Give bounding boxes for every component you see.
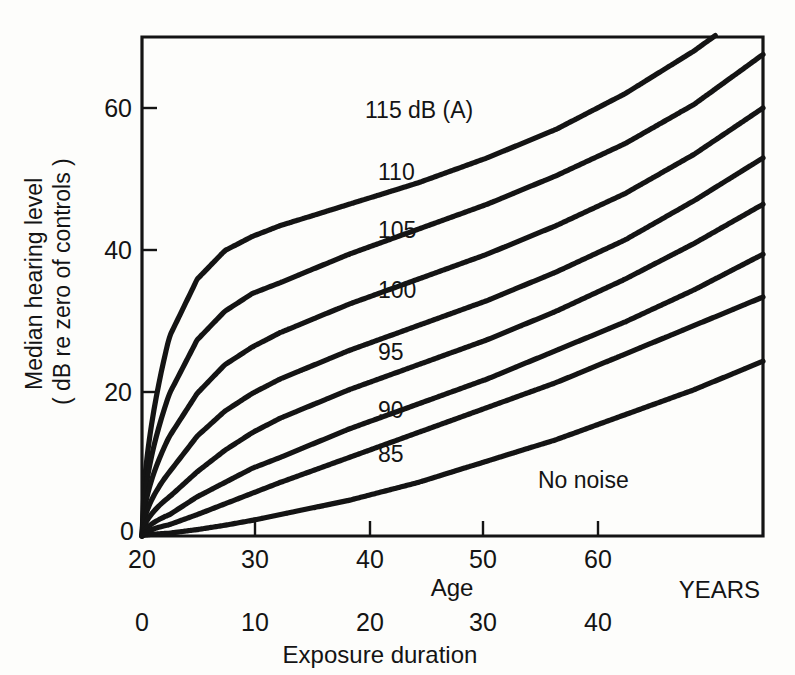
y-axis-title-line2: ( dB re zero of controls ) [49, 158, 75, 405]
y-tick-label-40: 40 [104, 236, 132, 264]
y-axis-ticks [142, 108, 157, 392]
x-secondary-tick-label-30: 30 [469, 608, 497, 636]
y-axis-title-line1: Median hearing level [21, 178, 47, 390]
x-secondary-tick-label-20: 20 [356, 608, 384, 636]
curve-no-noise [142, 361, 763, 536]
chart-svg: 60 40 20 0 Median hearing level ( dB re … [0, 0, 795, 675]
x-secondary-tick-label-10: 10 [241, 608, 269, 636]
curve-label-110: 110 [378, 159, 415, 185]
x-axis-unit-years: YEARS [679, 576, 760, 603]
curve-label-115: 115 dB (A) [365, 97, 473, 123]
x-tick-label-30: 30 [241, 545, 269, 573]
curve-label-100: 100 [378, 277, 416, 303]
y-tick-label-20: 20 [104, 378, 132, 406]
curve-label-90: 90 [378, 397, 404, 423]
curve-label-85: 85 [378, 441, 404, 467]
x-secondary-tick-label-0: 0 [135, 608, 149, 636]
y-tick-label-60: 60 [104, 94, 132, 122]
x-tick-label-40: 40 [356, 545, 384, 573]
curve-110 [142, 55, 763, 537]
curve-label-95: 95 [378, 339, 404, 365]
x-axis-secondary-title: Exposure duration [283, 641, 478, 668]
x-tick-label-20: 20 [128, 545, 156, 573]
curve-90 [142, 254, 763, 536]
x-tick-label-60: 60 [584, 545, 612, 573]
hearing-level-figure: 60 40 20 0 Median hearing level ( dB re … [0, 0, 795, 675]
curve-label-no-noise: No noise [538, 467, 629, 493]
curve-label-105: 105 [378, 217, 416, 243]
x-axis-primary-ticks [255, 521, 598, 536]
y-tick-label-0: 0 [120, 517, 134, 545]
x-axis-primary-title: Age [431, 574, 474, 601]
x-tick-label-50: 50 [469, 545, 497, 573]
x-secondary-tick-label-40: 40 [584, 608, 612, 636]
curve-95 [142, 204, 763, 536]
curve-85 [142, 297, 763, 536]
